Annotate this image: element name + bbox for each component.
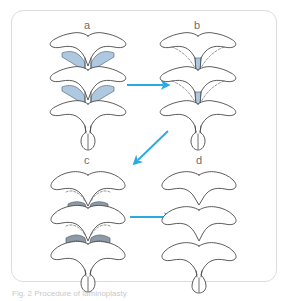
panel-label-d: d: [196, 155, 202, 166]
vertebra-a3: [50, 101, 126, 150]
vertebra-a1: [50, 33, 126, 72]
anatomical-diagram: .bone { fill:#ffffff; stroke:#4a4a4a; st…: [0, 0, 293, 301]
figure-caption: Fig. 2 Procedure of laminoplasty: [12, 289, 282, 299]
vertebra-c2: [51, 205, 125, 241]
vertebra-a2: [50, 67, 126, 106]
vertebra-b2: [160, 67, 236, 107]
vertebra-d3: [162, 243, 236, 293]
panel-d-illustration: [162, 172, 236, 293]
panel-b-illustration: [160, 33, 236, 150]
vertebra-c1: [51, 172, 125, 206]
vertebra-b3: [160, 101, 236, 150]
arrow-b-to-c: [138, 131, 168, 160]
panel-c-illustration: [51, 172, 125, 292]
vertebra-c3: [51, 241, 125, 292]
panel-label-b: b: [194, 20, 200, 31]
vertebra-b1: [160, 33, 236, 73]
figure-root: .bone { fill:#ffffff; stroke:#4a4a4a; st…: [0, 0, 293, 301]
vertebra-d2: [162, 207, 236, 241]
vertebra-d1: [162, 172, 236, 205]
panel-a-illustration: [50, 33, 126, 150]
panel-label-a: a: [84, 20, 90, 31]
panel-label-c: c: [84, 155, 90, 166]
